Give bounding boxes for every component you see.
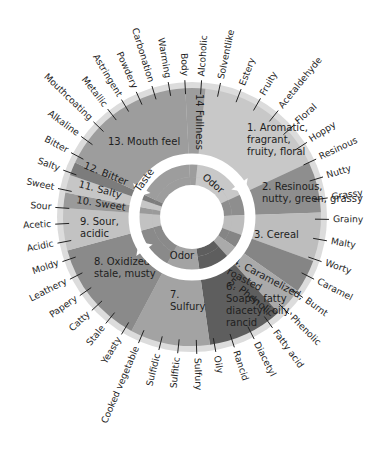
outer-term-label: Sulfidic — [143, 352, 162, 387]
outer-term-label: Nutty — [325, 162, 353, 180]
outer-term-label: Worty — [324, 257, 354, 276]
segment-label-line: fragrant, — [247, 134, 291, 145]
outer-term-label: Hoppy — [307, 118, 338, 144]
outer-term-label: Phenolic — [289, 312, 324, 347]
outer-term-label: Moldy — [31, 257, 61, 276]
outer-term-label: Stale — [84, 322, 107, 347]
outer-term-label: Bitter — [43, 133, 71, 155]
segment-label-line: acidic — [80, 228, 109, 239]
segment-label-line: 7. — [170, 289, 180, 300]
outer-term-label: Salty — [36, 155, 62, 173]
segment-label-line: stale, musty — [94, 268, 156, 279]
segment-label-line: fruity, floral — [247, 146, 305, 157]
outer-term-label: Caramel — [316, 275, 355, 302]
center-disk — [160, 185, 224, 249]
segment-label-line: 3. Cereal — [254, 229, 299, 240]
outer-term-label: Oily — [212, 355, 226, 375]
outer-term-label: Alkaline — [46, 108, 82, 138]
outer-term-label: Fruity — [257, 69, 280, 97]
outer-term-label: Fatty acid — [271, 327, 306, 370]
segment-label-line: 9. Sour, — [80, 216, 119, 227]
segment-label-3: 3. Cereal — [254, 229, 299, 240]
segment-label-line: diacetyl, oily, — [226, 305, 293, 316]
outer-term-label: Sulfury — [192, 358, 204, 391]
outer-term-label: Sour — [30, 199, 52, 211]
segment-label-line: Sulfury — [170, 301, 205, 312]
segment-label-line: 14 Fullness — [194, 94, 205, 150]
segment-label-line: Soapy, fatty — [226, 293, 287, 304]
outer-term-label: Acetaldehyde — [276, 54, 324, 110]
inner-ring-segment — [190, 177, 196, 185]
segment-label-14: 14 Fullness — [194, 94, 205, 150]
outer-term-label: Papery — [47, 292, 80, 319]
segment-label-line: 1. Aromatic, — [247, 122, 308, 133]
outer-term-label: Acetic — [23, 218, 52, 230]
segment-label-line: nutty, green, grassy — [262, 193, 363, 204]
outer-term-label: Solventlike — [215, 28, 236, 80]
outer-term-label: Resinous — [317, 134, 359, 161]
inner-ring-segment — [152, 214, 161, 227]
segment-label-2: 2. Resinous,nutty, green, grassy — [262, 181, 363, 204]
outer-term-label: Diacetyl — [252, 340, 279, 378]
segment-label-line: 6. — [226, 281, 236, 292]
outer-term-label: Sweet — [25, 175, 55, 192]
outer-term-label: Burnt — [303, 295, 330, 319]
flavor-wheel-diagram: BodyAlcoholicSolventlikeEsteryFruityAcet… — [0, 0, 384, 458]
outer-term-label: Rancid — [231, 349, 251, 382]
outer-term-label: Body — [179, 53, 191, 77]
outer-term-label: Acidic — [26, 238, 55, 254]
outer-term-label: Alcoholic — [195, 35, 209, 77]
outer-term-label: Malty — [330, 235, 357, 250]
segment-label-line: 13. Mouth feel — [108, 136, 180, 147]
outer-term-label: Warming — [156, 37, 174, 79]
outer-term-label: Estery — [236, 55, 257, 87]
segment-label-line: rancid — [226, 317, 257, 328]
segment-label-line: 2. Resinous, — [262, 181, 323, 192]
segment-label-13: 13. Mouth feel — [108, 136, 180, 147]
ring-label-odor_bottom: Odor — [170, 250, 195, 261]
outer-term-label: Sulfitic — [168, 357, 182, 389]
outer-term-label: Yeasty — [98, 334, 123, 366]
outer-term-label: Grainy — [333, 213, 364, 225]
outer-term-label: Catty — [66, 308, 92, 333]
